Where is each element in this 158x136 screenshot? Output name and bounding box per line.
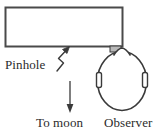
pinhole-label: Pinhole bbox=[5, 58, 45, 71]
pinhole-camera-diagram: Pinhole To moon Observer bbox=[0, 0, 158, 136]
to-moon-label: To moon bbox=[36, 116, 83, 129]
pinhole-zigzag-leader-line bbox=[57, 51, 66, 72]
observer-label: Observer bbox=[104, 116, 152, 129]
observer-right-ear-icon bbox=[143, 73, 148, 88]
to-moon-arrowhead-icon bbox=[67, 104, 74, 113]
observer-head-oval bbox=[98, 52, 147, 111]
pinhole-camera-box bbox=[6, 8, 123, 47]
observer-left-ear-icon bbox=[97, 73, 102, 88]
